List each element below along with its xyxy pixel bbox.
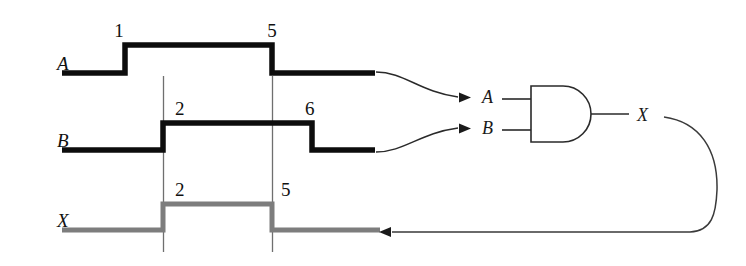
- gate-output-label-x: X: [636, 105, 649, 125]
- connector-curve-a: [376, 72, 458, 97]
- arrowhead-a-icon: [459, 93, 471, 103]
- arrowhead-b-icon: [459, 124, 471, 134]
- timing-diagram-figure: A 1 5 B 2 6 X 2 5 A B: [0, 0, 746, 266]
- edge-label-x-rise: 2: [175, 179, 185, 200]
- connector-curve-b: [376, 128, 458, 152]
- and-gate-body: [531, 86, 591, 142]
- feedback-curve: [392, 117, 717, 232]
- waveform-b-group: B 2 6: [57, 98, 375, 151]
- edge-label-b-fall: 6: [305, 98, 315, 119]
- edge-label-a-fall: 5: [267, 20, 277, 41]
- waveform-b-trace: [62, 123, 375, 150]
- waveform-a-trace: [62, 45, 375, 73]
- edge-label-a-rise: 1: [114, 20, 124, 41]
- edge-label-x-fall: 5: [281, 179, 291, 200]
- arrowhead-feedback-icon: [379, 227, 391, 237]
- waveform-x-group: X 2 5: [56, 179, 380, 231]
- waveform-a-group: A 1 5: [55, 20, 375, 74]
- gate-input-label-b: B: [482, 118, 493, 138]
- and-gate-group: A B X: [481, 86, 649, 142]
- connector-curves-group: [376, 72, 471, 152]
- gate-input-label-a: A: [481, 87, 494, 107]
- edge-label-b-rise: 2: [175, 98, 185, 119]
- waveform-x-trace: [62, 204, 380, 230]
- timing-diagram-canvas: A 1 5 B 2 6 X 2 5 A B: [0, 0, 746, 266]
